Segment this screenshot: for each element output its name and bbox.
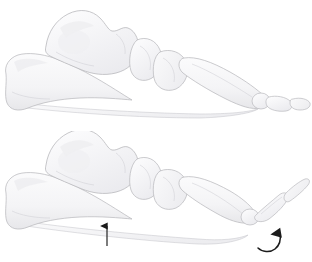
- plantar-fascia: [20, 103, 258, 118]
- distal-phalanx-bone: [284, 179, 309, 202]
- foot-skeleton-neutral: [0, 0, 312, 131]
- talus-head-highlight: [58, 149, 90, 173]
- plantar-fascia: [20, 221, 248, 244]
- foot-skeleton-dorsiflexed: [0, 131, 312, 262]
- panel-dorsiflexed-foot: [0, 131, 312, 262]
- foot-windlass-illustration: [0, 0, 312, 262]
- distal-phalanx-bone: [290, 98, 310, 110]
- toe-rotation-arrow: [258, 233, 280, 252]
- proximal-phalanx-bone: [266, 96, 292, 111]
- proximal-phalanx-bone: [255, 193, 289, 222]
- talus-head-highlight: [58, 30, 90, 54]
- panel-neutral-foot: [0, 0, 312, 131]
